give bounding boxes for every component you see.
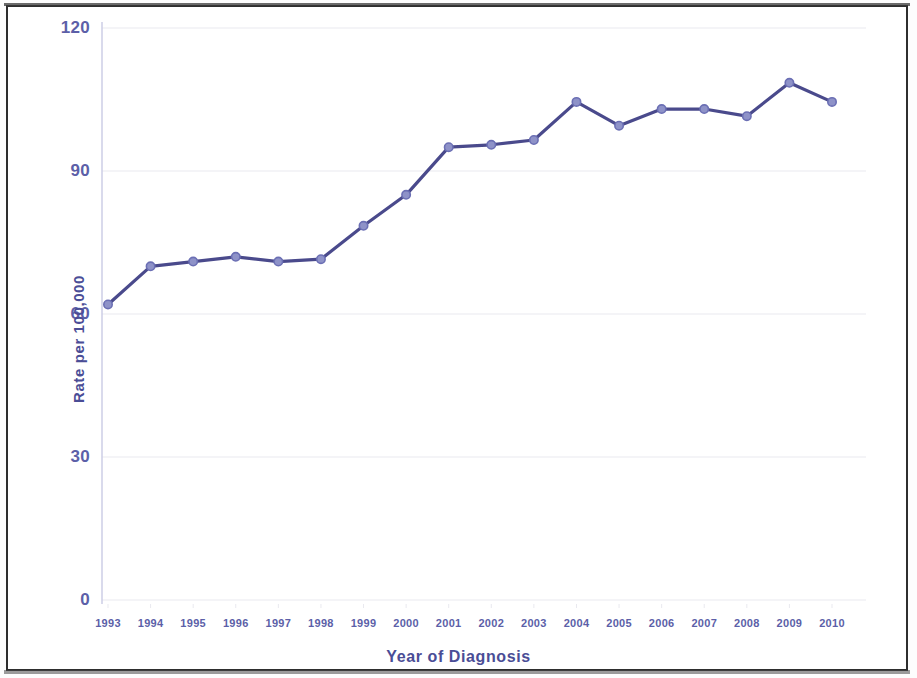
x-axis-tick-label: 1998 — [308, 617, 334, 629]
y-axis-title: Rate per 100,000 — [70, 275, 87, 403]
tick-mark-group — [108, 604, 832, 608]
x-axis-tick-label: 2000 — [393, 617, 419, 629]
data-point-marker — [317, 255, 325, 263]
x-axis-tick-label: 1994 — [138, 617, 164, 629]
y-axis-tick-label: 120 — [28, 18, 90, 38]
y-axis-tick-label: 90 — [28, 161, 90, 181]
x-axis-tick-label: 1995 — [180, 617, 206, 629]
data-point-marker — [572, 98, 580, 106]
x-axis-tick-label: 2010 — [819, 617, 845, 629]
x-axis-tick-label: 2007 — [691, 617, 717, 629]
line-chart-plot — [0, 0, 917, 678]
x-axis-tick-label: 1997 — [266, 617, 292, 629]
x-axis-tick-label: 2005 — [606, 617, 632, 629]
data-point-marker — [657, 105, 665, 113]
data-point-marker — [445, 143, 453, 151]
data-point-marker — [785, 79, 793, 87]
x-axis-tick-label: 2002 — [478, 617, 504, 629]
data-point-marker — [104, 300, 112, 308]
data-point-marker — [700, 105, 708, 113]
data-point-marker — [615, 122, 623, 130]
data-point-marker — [743, 112, 751, 120]
data-point-marker — [232, 253, 240, 261]
data-series-line — [108, 83, 832, 305]
x-axis-tick-label: 2001 — [436, 617, 462, 629]
data-point-marker — [402, 191, 410, 199]
y-axis-tick-label: 0 — [28, 590, 90, 610]
x-axis-tick-label: 2009 — [777, 617, 803, 629]
x-axis-title: Year of Diagnosis — [0, 648, 917, 666]
data-point-marker — [274, 257, 282, 265]
x-axis-tick-label: 2006 — [649, 617, 675, 629]
data-point-marker — [530, 136, 538, 144]
x-axis-tick-label: 1993 — [95, 617, 121, 629]
x-axis-tick-label: 2004 — [564, 617, 590, 629]
x-axis-tick-label: 1996 — [223, 617, 249, 629]
data-point-marker — [146, 262, 154, 270]
data-point-marker — [487, 141, 495, 149]
data-point-marker — [359, 222, 367, 230]
x-axis-tick-label: 2008 — [734, 617, 760, 629]
data-point-marker — [189, 257, 197, 265]
y-axis-tick-label: 30 — [28, 447, 90, 467]
x-axis-tick-label: 1999 — [351, 617, 377, 629]
x-axis-tick-label: 2003 — [521, 617, 547, 629]
data-point-marker — [828, 98, 836, 106]
chart-figure: 0306090120 19931994199519961997199819992… — [0, 0, 917, 678]
